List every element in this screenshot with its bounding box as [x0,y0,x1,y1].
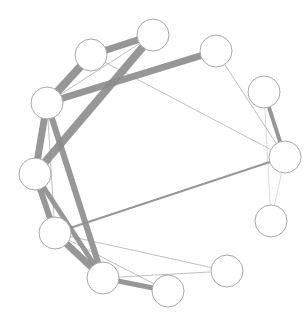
edge-n9-n10 [55,233,227,271]
node-n11 [87,262,119,294]
node-n7 [19,158,51,190]
node-circle [248,76,280,108]
node-circle [211,255,243,287]
node-n4 [31,87,63,119]
node-circle [137,19,169,51]
edges-layer [35,35,285,291]
node-n5 [248,76,280,108]
node-n10 [211,255,243,287]
network-graph [0,0,308,316]
node-n3 [200,35,232,67]
node-circle [87,262,119,294]
node-n2 [75,39,107,71]
node-circle [31,87,63,119]
nodes-layer [19,19,301,307]
node-n9 [39,217,71,249]
node-n12 [152,275,184,307]
node-n8 [255,205,287,237]
edge-n6-n9 [55,157,285,233]
node-circle [269,141,301,173]
node-circle [152,275,184,307]
node-circle [75,39,107,71]
node-circle [255,205,287,237]
node-circle [19,158,51,190]
node-n6 [269,141,301,173]
node-circle [39,217,71,249]
node-n1 [137,19,169,51]
node-circle [200,35,232,67]
